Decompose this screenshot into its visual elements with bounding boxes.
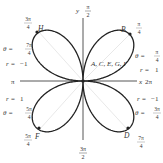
svg-text:5π: 5π bbox=[26, 106, 32, 112]
annotation-b: θ = π 4 r = 1 bbox=[135, 49, 160, 74]
svg-text:3π: 3π bbox=[25, 16, 31, 22]
svg-text:θ =: θ = bbox=[135, 52, 145, 60]
svg-text:3π: 3π bbox=[154, 106, 160, 112]
svg-text:r =: r = bbox=[6, 95, 15, 103]
svg-text:r =: r = bbox=[140, 66, 149, 74]
guide-line-pi-4 bbox=[83, 33, 131, 81]
point-b-label: B bbox=[121, 25, 126, 34]
svg-text:4: 4 bbox=[156, 114, 159, 120]
svg-text:7π: 7π bbox=[138, 135, 144, 141]
point-b bbox=[128, 32, 131, 35]
y-bottom-angle-den: 2 bbox=[82, 154, 85, 160]
x-left-angle: π bbox=[11, 78, 15, 86]
svg-text:−1: −1 bbox=[151, 95, 159, 103]
angle-label-pi-4: π 4 bbox=[136, 21, 142, 35]
svg-text:r =: r = bbox=[6, 60, 15, 68]
svg-text:1: 1 bbox=[20, 95, 24, 103]
point-d bbox=[126, 126, 129, 129]
x-axis-label: x bbox=[138, 78, 143, 86]
svg-text:4: 4 bbox=[27, 24, 30, 30]
svg-text:θ =: θ = bbox=[135, 109, 145, 117]
svg-text:4: 4 bbox=[138, 29, 141, 35]
y-top-angle-den: 2 bbox=[87, 12, 90, 18]
y-bottom-angle-num: 3π bbox=[80, 146, 86, 152]
svg-text:4: 4 bbox=[28, 50, 31, 56]
x-right-angle: 2π bbox=[145, 78, 153, 86]
annotation-d: r = −1 θ = 3π 4 bbox=[135, 95, 161, 120]
point-h-label: H bbox=[37, 24, 44, 33]
svg-text:5π: 5π bbox=[25, 133, 31, 139]
svg-text:π: π bbox=[156, 49, 159, 55]
svg-text:4: 4 bbox=[156, 57, 159, 63]
guide-line-5pi-4 bbox=[39, 81, 83, 130]
polar-rose-diagram: y π 2 3π 2 π x 2π A, C, E, G, I B D F H … bbox=[0, 0, 163, 163]
origin-point bbox=[81, 79, 84, 82]
y-top-angle-num: π bbox=[86, 4, 89, 10]
svg-text:r =: r = bbox=[137, 95, 146, 103]
annotation-f: r = 1 θ = 5π 4 bbox=[3, 95, 33, 120]
point-f-label: F bbox=[34, 132, 40, 141]
y-axis-label: y bbox=[75, 7, 80, 15]
svg-text:7π: 7π bbox=[26, 42, 32, 48]
svg-text:4: 4 bbox=[140, 143, 143, 149]
origin-label: A, C, E, G, I bbox=[90, 60, 126, 68]
guide-line-3pi-4 bbox=[38, 31, 83, 81]
svg-text:4: 4 bbox=[28, 114, 31, 120]
svg-text:−1: −1 bbox=[20, 60, 28, 68]
svg-text:π: π bbox=[138, 21, 141, 27]
point-f bbox=[37, 126, 40, 129]
annotation-h: θ = 7π 4 r = −1 bbox=[3, 42, 33, 68]
angle-label-7pi-4: 7π 4 bbox=[137, 135, 145, 149]
point-d-label: D bbox=[123, 131, 130, 140]
guide-line-7pi-4 bbox=[83, 81, 128, 130]
angle-label-5pi-4: 5π 4 bbox=[24, 133, 32, 147]
svg-text:θ =: θ = bbox=[3, 109, 13, 117]
svg-text:4: 4 bbox=[27, 141, 30, 147]
svg-text:θ =: θ = bbox=[3, 45, 13, 53]
svg-text:1: 1 bbox=[155, 66, 159, 74]
angle-label-3pi-4: 3π 4 bbox=[24, 16, 32, 30]
